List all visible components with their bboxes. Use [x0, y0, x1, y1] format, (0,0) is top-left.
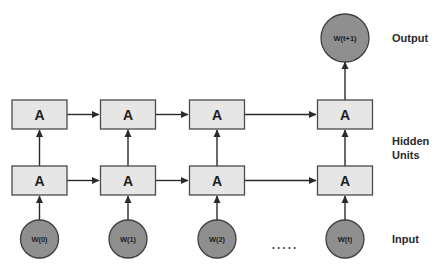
output-layer-label: Output — [392, 32, 428, 44]
input-to-hidden-edges — [40, 196, 346, 220]
input-node-label: W(t) — [338, 235, 353, 244]
hidden-layer-label-line1: Hidden — [392, 135, 430, 147]
hidden-unit-label: A — [212, 173, 222, 189]
sequence-ellipsis: ..... — [272, 238, 299, 252]
input-row: W(0) W(1) W(2) W(t) — [21, 220, 365, 258]
hidden-unit-label: A — [340, 107, 350, 123]
hidden-unit-top-0: A — [12, 100, 67, 129]
input-node-1: W(1) — [109, 220, 147, 258]
output-node-label: W(t+1) — [333, 34, 357, 43]
hidden-unit-bottom-0: A — [12, 166, 67, 195]
hidden-unit-top-2: A — [190, 100, 245, 129]
input-node-0: W(0) — [21, 220, 59, 258]
input-node-label: W(2) — [209, 235, 226, 244]
hidden-unit-label: A — [212, 107, 222, 123]
hidden-unit-top-t: A — [318, 100, 373, 129]
hidden-layer-label-line2: Units — [392, 149, 420, 161]
hidden-unit-label: A — [123, 107, 133, 123]
hidden-unit-label: A — [123, 173, 133, 189]
hidden-unit-bottom-2: A — [190, 166, 245, 195]
input-layer-label: Input — [392, 233, 419, 245]
input-node-t: W(t) — [326, 220, 364, 258]
output-node: W(t+1) — [321, 14, 369, 62]
hidden-top-row: A A A A — [12, 100, 373, 129]
hidden-unit-bottom-1: A — [101, 166, 156, 195]
hidden-unit-label: A — [34, 107, 44, 123]
input-node-label: W(0) — [31, 235, 48, 244]
input-node-2: W(2) — [198, 220, 236, 258]
rnn-diagram: A A A A A A A A — [0, 0, 443, 269]
hidden-to-hidden-edges — [40, 130, 346, 166]
hidden-unit-label: A — [34, 173, 44, 189]
hidden-unit-label: A — [340, 173, 350, 189]
hidden-unit-top-1: A — [101, 100, 156, 129]
hidden-unit-bottom-t: A — [318, 166, 373, 195]
hidden-bottom-row: A A A A — [12, 166, 373, 195]
input-node-label: W(1) — [120, 235, 137, 244]
